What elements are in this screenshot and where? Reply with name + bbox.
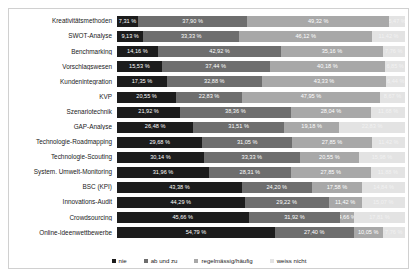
stacked-bar: 43,38 %24,20 %17,58 %14,84 % bbox=[117, 182, 405, 193]
bar-segment-regelm-ssig-h-ufig: 4,66 % bbox=[340, 212, 353, 223]
bar-segment-regelm-ssig-h-ufig: 27,85 % bbox=[291, 167, 371, 178]
category-label: Benchmarking bbox=[13, 49, 117, 55]
bar-segment-weiss-nicht: 17,81 % bbox=[354, 212, 405, 223]
bar-segment-weiss-nicht: 6,85 % bbox=[385, 61, 405, 72]
bar-segment-regelm-ssig-h-ufig: 11,42 % bbox=[329, 197, 362, 208]
chart-row: Szenariotechnik21,92 %38,36 %28,04 %11,6… bbox=[13, 105, 405, 120]
legend-swatch-icon bbox=[144, 259, 148, 263]
stacked-bar: 26,48 %31,51 %19,18 %22,83 % bbox=[117, 122, 405, 133]
bar-segment-nie: 30,14 % bbox=[117, 152, 204, 163]
category-label: GAP-Analyse bbox=[13, 124, 117, 130]
category-label: Technologie-Scouting bbox=[13, 154, 117, 160]
legend-swatch-icon bbox=[194, 259, 198, 263]
stacked-bar: 15,53 %37,44 %40,18 %6,85 % bbox=[117, 61, 405, 72]
category-label: System. Umwelt-Monitoring bbox=[13, 169, 117, 175]
chart-plot-area: Kreativitätsmethoden7,31 %37,90 %49,32 %… bbox=[13, 14, 405, 252]
chart-row: Crowdsourcing45,66 %31,92 %4,66 %17,81 % bbox=[13, 210, 405, 225]
legend-label: weiss nicht bbox=[277, 257, 307, 264]
legend-swatch-icon bbox=[270, 259, 274, 263]
chart-row: System. Umwelt-Monitoring31,96 %28,31 %2… bbox=[13, 165, 405, 180]
bar-segment-weiss-nicht: 6,44 % bbox=[386, 76, 405, 87]
chart-row: Innovations-Audit44,29 %29,22 %11,42 %15… bbox=[13, 195, 405, 210]
stacked-bar: 54,79 %27,40 %10,05 %7,76 % bbox=[117, 227, 405, 238]
stacked-bar: 14,16 %42,92 %35,16 %7,76 % bbox=[117, 46, 405, 57]
stacked-bar: 21,92 %38,36 %28,04 %11,68 % bbox=[117, 107, 405, 118]
category-label: Szenariotechnik bbox=[13, 109, 117, 115]
bar-segment-ab-und-zu: 24,20 % bbox=[242, 182, 312, 193]
chart-row: BSC (KPI)43,38 %24,20 %17,58 %14,84 % bbox=[13, 180, 405, 195]
bar-segment-nie: 31,96 % bbox=[117, 167, 209, 178]
bar-segment-regelm-ssig-h-ufig: 40,18 % bbox=[270, 61, 386, 72]
chart-row: Technologie-Scouting30,14 %33,33 %20,55 … bbox=[13, 150, 405, 165]
bar-segment-nie: 7,31 % bbox=[117, 16, 138, 27]
bar-segment-weiss-nicht: 15,07 % bbox=[362, 197, 405, 208]
bar-segment-nie: 26,48 % bbox=[117, 122, 193, 133]
bar-segment-nie: 15,53 % bbox=[117, 61, 162, 72]
bar-segment-weiss-nicht: 11,42 % bbox=[372, 137, 405, 148]
category-label: SWOT-Analyse bbox=[13, 33, 117, 39]
bar-segment-weiss-nicht: 5,47 % bbox=[389, 16, 405, 27]
bar-segment-ab-und-zu: 33,33 % bbox=[204, 152, 300, 163]
bar-segment-ab-und-zu: 31,92 % bbox=[249, 212, 341, 223]
stacked-bar: 30,14 %33,33 %20,55 %15,98 % bbox=[117, 152, 405, 163]
stacked-bar: 29,68 %31,05 %27,85 %11,42 % bbox=[117, 137, 405, 148]
bar-segment-regelm-ssig-h-ufig: 10,05 % bbox=[354, 227, 383, 238]
category-label: BSC (KPI) bbox=[13, 184, 117, 190]
legend-label: regelmässig/häufig bbox=[201, 257, 252, 264]
chart-row: Kundenintegration17,35 %32,88 %43,33 %6,… bbox=[13, 74, 405, 89]
bar-segment-weiss-nicht: 11,68 % bbox=[371, 107, 405, 118]
chart-row: Benchmarking14,16 %42,92 %35,16 %7,76 % bbox=[13, 44, 405, 59]
bar-segment-ab-und-zu: 37,90 % bbox=[138, 16, 247, 27]
bar-segment-ab-und-zu: 37,44 % bbox=[162, 61, 270, 72]
chart-row: Vorschlagswesen15,53 %37,44 %40,18 %6,85… bbox=[13, 59, 405, 74]
stacked-bar: 17,35 %32,88 %43,33 %6,44 % bbox=[117, 76, 405, 87]
bar-segment-regelm-ssig-h-ufig: 43,33 % bbox=[262, 76, 387, 87]
chart-row: Online-Ideenwettbewerbe54,79 %27,40 %10,… bbox=[13, 225, 405, 240]
bar-segment-weiss-nicht: 8,67 % bbox=[380, 92, 405, 103]
bar-segment-regelm-ssig-h-ufig: 17,58 % bbox=[312, 182, 363, 193]
legend-item[interactable]: ab und zu bbox=[144, 257, 178, 264]
bar-segment-nie: 17,35 % bbox=[117, 76, 167, 87]
bar-segment-ab-und-zu: 31,51 % bbox=[193, 122, 284, 133]
bar-segment-ab-und-zu: 29,22 % bbox=[245, 197, 329, 208]
bar-segment-regelm-ssig-h-ufig: 46,12 % bbox=[239, 31, 372, 42]
category-label: Kundenintegration bbox=[13, 79, 117, 85]
bar-segment-regelm-ssig-h-ufig: 28,04 % bbox=[291, 107, 372, 118]
category-label: Technologie-Roadmapping bbox=[13, 139, 117, 145]
legend-item[interactable]: weiss nicht bbox=[270, 257, 307, 264]
stacked-bar: 45,66 %31,92 %4,66 %17,81 % bbox=[117, 212, 405, 223]
legend-item[interactable]: nie bbox=[112, 257, 127, 264]
bar-segment-regelm-ssig-h-ufig: 49,32 % bbox=[247, 16, 389, 27]
bar-segment-weiss-nicht: 11,88 % bbox=[371, 167, 405, 178]
bar-segment-regelm-ssig-h-ufig: 47,95 % bbox=[242, 92, 380, 103]
category-label: KVP bbox=[13, 94, 117, 100]
bar-segment-ab-und-zu: 32,88 % bbox=[167, 76, 262, 87]
bar-segment-weiss-nicht: 22,83 % bbox=[339, 122, 405, 133]
stacked-bar: 44,29 %29,22 %11,42 %15,07 % bbox=[117, 197, 405, 208]
chart-row: Technologie-Roadmapping29,68 %31,05 %27,… bbox=[13, 135, 405, 150]
bar-segment-weiss-nicht: 7,76 % bbox=[383, 227, 405, 238]
bar-segment-nie: 45,66 % bbox=[117, 212, 249, 223]
bar-segment-ab-und-zu: 28,31 % bbox=[209, 167, 291, 178]
category-label: Vorschlagswesen bbox=[13, 64, 117, 70]
stacked-bar: 20,55 %22,83 %47,95 %8,67 % bbox=[117, 92, 405, 103]
category-label: Kreativitätsmethoden bbox=[13, 18, 117, 24]
bar-segment-nie: 44,29 % bbox=[117, 197, 245, 208]
legend-label: nie bbox=[119, 257, 127, 264]
chart-row: GAP-Analyse26,48 %31,51 %19,18 %22,83 % bbox=[13, 120, 405, 135]
bar-segment-weiss-nicht: 15,98 % bbox=[359, 152, 405, 163]
legend-item[interactable]: regelmässig/häufig bbox=[194, 257, 252, 264]
legend-swatch-icon bbox=[112, 259, 116, 263]
bar-segment-regelm-ssig-h-ufig: 27,85 % bbox=[292, 137, 372, 148]
bar-segment-regelm-ssig-h-ufig: 20,55 % bbox=[300, 152, 359, 163]
bar-segment-ab-und-zu: 31,05 % bbox=[202, 137, 291, 148]
bar-segment-nie: 20,55 % bbox=[117, 92, 176, 103]
chart-frame: Kreativitätsmethoden7,31 %37,90 %49,32 %… bbox=[8, 8, 409, 269]
chart-row: Kreativitätsmethoden7,31 %37,90 %49,32 %… bbox=[13, 14, 405, 29]
chart-row: KVP20,55 %22,83 %47,95 %8,67 % bbox=[13, 89, 405, 104]
bar-segment-ab-und-zu: 22,83 % bbox=[176, 92, 242, 103]
bar-segment-ab-und-zu: 33,33 % bbox=[143, 31, 239, 42]
category-label: Online-Ideenwettbewerbe bbox=[13, 230, 117, 236]
stacked-bar: 9,13 %33,33 %46,12 %11,42 % bbox=[117, 31, 405, 42]
legend-label: ab und zu bbox=[151, 257, 178, 264]
